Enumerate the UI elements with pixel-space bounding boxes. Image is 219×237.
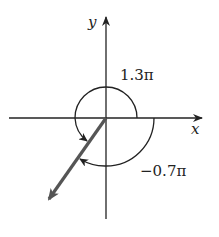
arc-neg-0-7pi	[80, 118, 154, 166]
angle-label-positive: 1.3π	[120, 68, 154, 83]
y-axis-label: y	[88, 15, 96, 30]
x-axis-label: x	[191, 122, 199, 137]
angle-label-negative: −0.7π	[140, 164, 186, 179]
diagram-svg	[0, 0, 219, 237]
angle-diagram: y x 1.3π −0.7π	[0, 0, 219, 237]
